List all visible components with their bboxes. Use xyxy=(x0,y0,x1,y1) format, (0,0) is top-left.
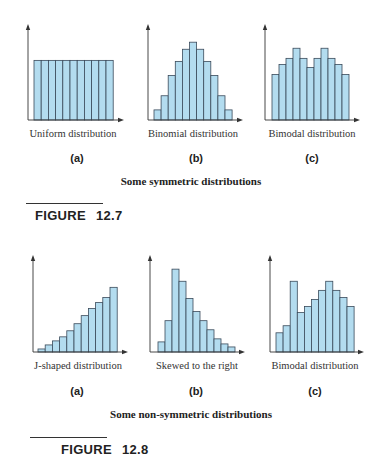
panel-title-bimodal: Bimodal distribution xyxy=(255,360,375,371)
figure-word: FIGURE xyxy=(61,442,112,457)
histogram-bar xyxy=(70,60,77,120)
histogram-bar xyxy=(333,290,340,352)
histogram-bar xyxy=(204,61,211,120)
histogram-bar xyxy=(99,60,106,120)
histogram-bar xyxy=(304,307,311,352)
y-axis-arrow-icon xyxy=(31,255,35,261)
histogram-bar xyxy=(314,58,321,120)
histogram-bar xyxy=(158,342,165,352)
histogram-bar xyxy=(328,58,335,120)
figure-rule xyxy=(26,203,103,204)
histogram-bar xyxy=(290,281,297,352)
histogram-bar xyxy=(154,110,161,120)
histogram-bar xyxy=(221,344,228,352)
y-axis-arrow-icon xyxy=(148,255,152,261)
histogram-bar xyxy=(335,64,342,120)
histogram-bar xyxy=(283,326,290,352)
figure-label: FIGURE12.8 xyxy=(61,442,148,457)
histogram-bar xyxy=(321,48,328,120)
x-axis-arrow-icon xyxy=(237,118,243,122)
histogram-bar xyxy=(182,49,189,120)
figure-number: 12.7 xyxy=(96,208,123,223)
x-axis-arrow-icon xyxy=(239,350,245,354)
panel-sub-b: (b) xyxy=(176,385,216,397)
histogram-bar xyxy=(276,333,283,352)
histogram-bar xyxy=(103,297,110,352)
panel-title-bimodal: Bimodal distribution xyxy=(252,128,372,139)
figure-caption: Some non-symmetric distributions xyxy=(0,408,382,420)
histogram-bar xyxy=(312,299,319,352)
histogram-panel xyxy=(146,24,243,122)
histogram-bar xyxy=(74,324,81,352)
panel-sub-c: (c) xyxy=(292,152,332,164)
histogram-bar xyxy=(297,313,304,352)
histogram-bar xyxy=(172,269,179,352)
histogram-panel xyxy=(31,255,128,354)
histogram-bar xyxy=(307,67,314,120)
panel-title-binomial: Binomial distribution xyxy=(133,128,253,139)
histogram-bar xyxy=(179,281,186,352)
histogram-bar xyxy=(218,96,225,120)
x-axis-arrow-icon xyxy=(118,118,124,122)
panel-sub-a: (a) xyxy=(57,152,97,164)
y-axis-arrow-icon xyxy=(146,24,150,30)
histogram-bar xyxy=(186,298,193,352)
histogram-bar xyxy=(38,349,45,352)
histogram-bar xyxy=(286,58,293,120)
histogram-bar xyxy=(279,64,286,120)
histogram-bar xyxy=(165,321,172,352)
histogram-bar xyxy=(63,60,70,120)
histogram-bar xyxy=(81,316,88,352)
histogram-bar xyxy=(207,330,214,352)
panel-title-uniform: Uniform distribution xyxy=(13,128,133,139)
histogram-bar xyxy=(168,76,175,120)
histogram-bar xyxy=(161,96,168,120)
histogram-bar xyxy=(67,331,74,352)
panel-sub-a: (a) xyxy=(57,385,97,397)
histogram-bar xyxy=(96,302,103,352)
histogram-panel xyxy=(148,255,245,354)
histogram-bar xyxy=(319,290,326,352)
histogram-bar xyxy=(60,337,67,352)
histogram-panel xyxy=(263,24,360,122)
x-axis-arrow-icon xyxy=(354,118,360,122)
x-axis-arrow-icon xyxy=(358,350,364,354)
histogram-bar xyxy=(340,297,347,352)
histogram-bar xyxy=(52,341,59,352)
figure-word: FIGURE xyxy=(35,208,86,223)
histogram-panel xyxy=(26,24,124,122)
figure-label: FIGURE12.7 xyxy=(35,208,122,223)
histogram-bar xyxy=(110,287,117,352)
histogram-bar xyxy=(41,60,48,120)
histogram-bar xyxy=(190,42,197,120)
y-axis-arrow-icon xyxy=(26,24,30,30)
histogram-bar xyxy=(225,110,232,120)
figure-number: 12.8 xyxy=(122,442,149,457)
histogram-bar xyxy=(92,60,99,120)
histogram-panel xyxy=(268,255,364,354)
histogram-bar xyxy=(228,347,235,352)
figure-caption: Some symmetric distributions xyxy=(0,175,382,187)
panel-sub-b: (b) xyxy=(176,152,216,164)
histogram-bar xyxy=(211,76,218,120)
histogram-bar xyxy=(84,60,91,120)
histogram-bar xyxy=(347,307,354,352)
histogram-bar xyxy=(77,60,84,120)
histogram-bar xyxy=(272,75,279,120)
histogram-bar xyxy=(214,339,221,352)
y-axis-arrow-icon xyxy=(268,255,272,261)
y-axis-arrow-icon xyxy=(263,24,267,30)
histogram-bar xyxy=(106,60,113,120)
panel-title-skewed-right: Skewed to the right xyxy=(137,360,257,371)
histogram-bar xyxy=(197,49,204,120)
histogram-bar xyxy=(48,60,55,120)
histogram-bar xyxy=(342,75,349,120)
histogram-bar xyxy=(193,312,200,352)
histogram-bar xyxy=(34,60,41,120)
histogram-bar xyxy=(200,321,207,352)
histogram-bar xyxy=(88,309,95,352)
histogram-bar xyxy=(175,61,182,120)
x-axis-arrow-icon xyxy=(122,350,128,354)
histogram-bar xyxy=(326,281,333,352)
histogram-bar xyxy=(300,58,307,120)
